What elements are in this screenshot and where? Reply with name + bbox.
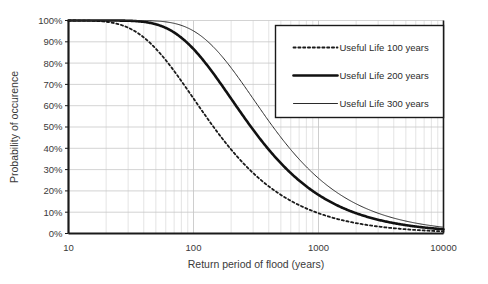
y-tick-label: 20% <box>43 185 63 196</box>
y-tick-label: 60% <box>43 100 63 111</box>
probability-of-occurrence-chart: 0%10%20%30%40%50%60%70%80%90%100% 101001… <box>0 0 488 284</box>
x-tick-label: 10 <box>63 242 74 253</box>
y-tick-label: 10% <box>43 207 63 218</box>
y-tick-label: 80% <box>43 58 63 69</box>
x-tick-label: 10000 <box>430 242 456 253</box>
y-axis-title: Probability of occurence <box>8 71 20 183</box>
legend-item-label: Useful Life 100 years <box>340 42 429 53</box>
x-axis-title: Return period of flood (years) <box>188 258 325 270</box>
chart-container: 0%10%20%30%40%50%60%70%80%90%100% 101001… <box>0 0 488 284</box>
legend-item-label: Useful Life 300 years <box>340 98 429 109</box>
y-tick-label: 90% <box>43 36 63 47</box>
y-tick-label: 100% <box>38 15 63 26</box>
y-tick-label: 70% <box>43 79 63 90</box>
y-tick-label: 40% <box>43 143 63 154</box>
y-tick-label: 50% <box>43 121 63 132</box>
x-tick-label: 100 <box>186 242 202 253</box>
legend-item-label: Useful Life 200 years <box>340 70 429 81</box>
chart-legend: Useful Life 100 yearsUseful Life 200 yea… <box>276 26 444 118</box>
x-tick-label: 1000 <box>308 242 329 253</box>
y-tick-label: 0% <box>49 228 63 239</box>
y-tick-label: 30% <box>43 164 63 175</box>
